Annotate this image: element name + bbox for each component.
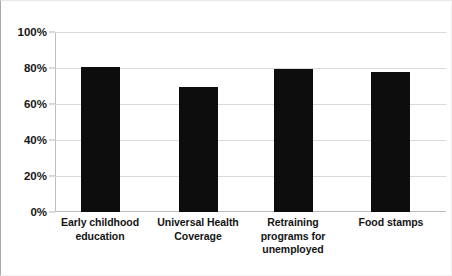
- plot-area: [55, 32, 446, 212]
- x-axis-label-line: Coverage: [143, 230, 253, 244]
- y-axis-tick-label: 80%: [1, 62, 47, 74]
- x-axis-label-line: education: [45, 230, 155, 244]
- x-axis-label-line: unemployed: [238, 243, 348, 257]
- y-axis-tick-label: 100%: [1, 26, 47, 38]
- gridline-100: [55, 32, 446, 33]
- x-axis-label-line: Universal Health: [143, 216, 253, 230]
- y-axis-tick-label: 0%: [1, 206, 47, 218]
- bar-retraining-programs: [274, 69, 313, 212]
- bar-food-stamps: [371, 72, 410, 212]
- bar-universal-health-coverage: [179, 87, 218, 212]
- x-axis-label-line: Retraining: [238, 216, 348, 230]
- y-axis-line: [55, 32, 56, 212]
- y-axis-tick-label: 40%: [1, 134, 47, 146]
- bar-chart: 100% 80% 60% 40% 20% 0% Early childhood …: [0, 0, 452, 276]
- x-axis-category-labels: Early childhood education Universal Heal…: [55, 216, 446, 274]
- x-axis-label-line: Early childhood: [45, 216, 155, 230]
- x-axis-label-universal-health-coverage: Universal Health Coverage: [143, 216, 253, 243]
- x-axis-label-line: programs for: [238, 230, 348, 244]
- x-axis-label-early-childhood-education: Early childhood education: [45, 216, 155, 243]
- x-axis-label-retraining-programs: Retraining programs for unemployed: [238, 216, 348, 257]
- x-axis-label-line: Food stamps: [336, 216, 446, 230]
- y-axis-tick-label: 20%: [1, 170, 47, 182]
- bar-early-childhood-education: [81, 67, 120, 212]
- y-axis: 100% 80% 60% 40% 20% 0%: [1, 32, 51, 212]
- y-axis-tick-label: 60%: [1, 98, 47, 110]
- x-axis-label-food-stamps: Food stamps: [336, 216, 446, 230]
